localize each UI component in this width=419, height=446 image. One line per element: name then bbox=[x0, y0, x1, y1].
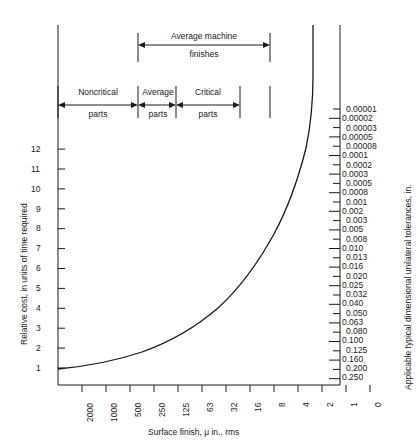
x-tick-label: 63 bbox=[206, 403, 215, 412]
y2-tick-label: 0.0008 bbox=[342, 188, 368, 197]
x-tick-label: 32 bbox=[230, 403, 239, 412]
x-tick-label: 4 bbox=[302, 402, 311, 407]
y-tick-label: 7 bbox=[36, 244, 41, 253]
band-label-average-line1: Average bbox=[136, 88, 180, 97]
y-axis-ticks bbox=[58, 149, 65, 368]
x-tick-label: 8 bbox=[278, 402, 287, 407]
y-tick-label: 1 bbox=[36, 364, 41, 373]
y-tick-label: 5 bbox=[36, 284, 41, 293]
cost-curve bbox=[58, 25, 313, 369]
x-tick-label: 500 bbox=[134, 403, 143, 417]
y-tick-label: 3 bbox=[36, 324, 41, 333]
y2-tick-label: 0.250 bbox=[342, 373, 363, 382]
x-tick-label: 125 bbox=[182, 403, 191, 417]
y2-tick-label: 0.00002 bbox=[342, 114, 373, 123]
x-tick-label: 16 bbox=[254, 403, 263, 412]
band-label-average-line2: parts bbox=[136, 110, 180, 119]
y-tick-label: 11 bbox=[31, 165, 40, 174]
y2-tick-label: 0.005 bbox=[342, 225, 363, 234]
y-axis-title: Relative cost, in units of time required bbox=[20, 203, 29, 345]
y2-tick-label: 0.100 bbox=[342, 336, 363, 345]
y-tick-label: 6 bbox=[36, 264, 41, 273]
x-axis-title: Surface finish, μ in., rms bbox=[148, 428, 239, 437]
x-axis-ticks bbox=[82, 385, 370, 392]
x-tick-label: 250 bbox=[158, 403, 167, 417]
band-label-critical-line2: parts bbox=[176, 110, 240, 119]
x-tick-label: 1 bbox=[350, 402, 359, 407]
x-tick-label: 1000 bbox=[110, 403, 119, 422]
y2-tick-label: 0.016 bbox=[342, 262, 363, 271]
y-tick-label: 8 bbox=[36, 224, 41, 233]
y2-axis-ticks bbox=[329, 109, 340, 379]
top-band-label-line2: finishes bbox=[138, 50, 270, 59]
y-tick-label: 2 bbox=[36, 344, 41, 353]
band-label-critical-line1: Critical bbox=[176, 88, 240, 97]
y-tick-label: 9 bbox=[36, 205, 41, 214]
y2-axis-title: Applicable typical dimensional unilatera… bbox=[404, 184, 413, 390]
top-band-label-line1: Average machine bbox=[138, 32, 270, 41]
x-tick-label: 2 bbox=[326, 402, 335, 407]
band-label-noncritical-line1: Noncritical bbox=[58, 88, 138, 97]
y-tick-label: 12 bbox=[31, 145, 40, 154]
band-label-noncritical-line2: parts bbox=[58, 110, 138, 119]
y-tick-label: 4 bbox=[36, 304, 41, 313]
y-tick-label: 10 bbox=[31, 185, 40, 194]
x-tick-label: 2000 bbox=[86, 403, 95, 422]
y2-tick-label: 0.0001 bbox=[342, 151, 368, 160]
y2-tick-label: 0.040 bbox=[342, 299, 363, 308]
x-tick-label: 0 bbox=[374, 402, 383, 407]
surface-finish-cost-chart: 1 2 3 4 5 6 7 8 9 10 11 12 Relative cost… bbox=[0, 0, 419, 446]
